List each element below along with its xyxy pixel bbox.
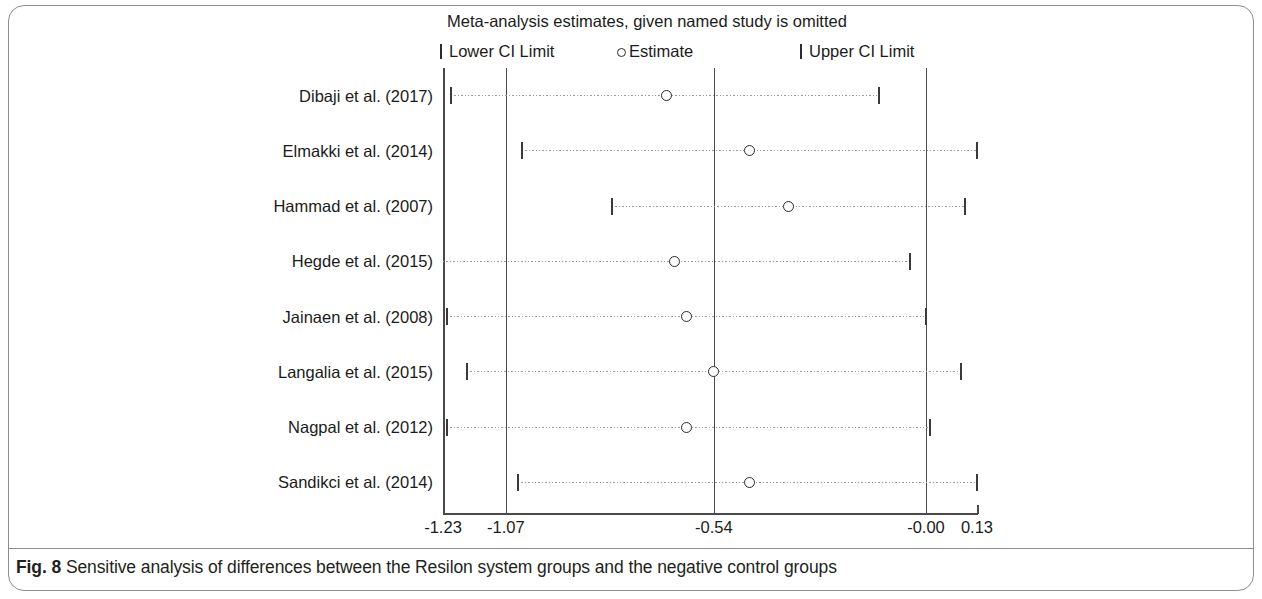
- sensitivity-analysis-chart: Meta-analysis estimates, given named stu…: [0, 0, 1262, 548]
- legend-label-upper-ci: Upper CI Limit: [809, 42, 914, 60]
- figure-caption-text: Sensitive analysis of differences betwee…: [66, 557, 837, 577]
- y-axis-spine: [443, 68, 445, 510]
- x-axis-tick-label: -1.07: [487, 518, 525, 537]
- y-axis-label: Hegde et al. (2015): [292, 252, 433, 271]
- x-axis-tick: [506, 505, 508, 514]
- x-axis-tick-label: -0.54: [695, 518, 733, 537]
- estimate-marker: [708, 366, 719, 377]
- figure-screenshot: Meta-analysis estimates, given named stu…: [0, 0, 1262, 599]
- upper-ci-cap: [925, 308, 927, 325]
- upper-ci-cap: [976, 142, 978, 159]
- estimate-marker: [783, 201, 794, 212]
- x-axis-tick: [977, 505, 979, 514]
- reference-line: [714, 68, 716, 510]
- upper-ci-cap: [976, 474, 978, 491]
- lower-ci-cap: [517, 474, 519, 491]
- lower-ci-cap: [521, 142, 523, 159]
- y-axis-label: Dibaji et al. (2017): [299, 86, 433, 105]
- x-axis-tick: [926, 505, 928, 514]
- lower-ci-cap: [446, 308, 448, 325]
- y-axis-label: Hammad et al. (2007): [273, 197, 433, 216]
- caption-divider: [9, 548, 1253, 549]
- x-axis-tick-label: 0.13: [961, 518, 993, 537]
- lower-ci-cap: [466, 363, 468, 380]
- legend-label-estimate: Estimate: [629, 42, 693, 60]
- upper-ci-cap: [878, 87, 880, 104]
- legend-item-lower-ci: Lower CI Limit: [440, 42, 554, 61]
- y-axis-label: Langalia et al. (2015): [278, 362, 433, 381]
- estimate-circle-icon: [617, 48, 626, 57]
- reference-line: [926, 68, 928, 510]
- upper-ci-cap: [964, 198, 966, 215]
- lower-ci-cap: [611, 198, 613, 215]
- y-axis-labels: Dibaji et al. (2017)Elmakki et al. (2014…: [0, 68, 433, 510]
- estimate-marker: [681, 422, 692, 433]
- x-axis-line: [443, 513, 978, 515]
- estimate-marker: [744, 477, 755, 488]
- y-axis-label: Jainaen et al. (2008): [283, 307, 433, 326]
- x-axis-tick-label: -1.23: [424, 518, 462, 537]
- x-axis-tick: [443, 505, 445, 514]
- upper-ci-bar-icon: [800, 44, 802, 59]
- estimate-marker: [744, 145, 755, 156]
- upper-ci-cap: [909, 253, 911, 270]
- legend-item-upper-ci: Upper CI Limit: [800, 42, 914, 61]
- y-axis-label: Nagpal et al. (2012): [288, 418, 433, 437]
- y-axis-label: Sandikci et al. (2014): [278, 473, 433, 492]
- x-axis-tick: [714, 505, 716, 514]
- figure-caption: Fig. 8 Sensitive analysis of differences…: [16, 557, 1236, 578]
- lower-ci-cap: [450, 87, 452, 104]
- lower-ci-cap: [446, 419, 448, 436]
- x-axis-tick-label: -0.00: [907, 518, 945, 537]
- legend-item-estimate: Estimate: [617, 42, 693, 61]
- chart-title: Meta-analysis estimates, given named stu…: [447, 12, 847, 31]
- figure-label: Fig. 8: [16, 557, 61, 577]
- plot-area: [443, 68, 977, 510]
- legend-label-lower-ci: Lower CI Limit: [449, 42, 554, 60]
- y-axis-label: Elmakki et al. (2014): [283, 141, 433, 160]
- reference-line: [506, 68, 508, 510]
- upper-ci-cap: [929, 419, 931, 436]
- upper-ci-cap: [960, 363, 962, 380]
- lower-ci-bar-icon: [440, 44, 442, 59]
- estimate-marker: [681, 311, 692, 322]
- estimate-marker: [669, 256, 680, 267]
- estimate-marker: [661, 90, 672, 101]
